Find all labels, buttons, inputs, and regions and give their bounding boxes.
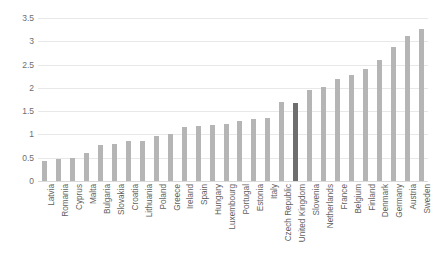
y-tick-label: 3 — [0, 37, 34, 45]
x-tick-label: Belgium — [355, 184, 362, 214]
x-tick-label: Latvia — [48, 184, 55, 206]
x-axis-labels: LatviaRomaniaCyprusMaltaBulgariaSlovakia… — [38, 184, 428, 268]
axis-baseline — [38, 181, 428, 182]
bar — [307, 90, 312, 181]
x-tick-label: Bulgaria — [104, 184, 111, 214]
x-tick-label: Malta — [90, 184, 97, 204]
x-tick-label: Estonia — [257, 184, 264, 211]
bar — [251, 119, 256, 181]
bar — [84, 153, 89, 181]
x-tick-label: Hungary — [215, 184, 222, 215]
x-tick-label: Portugal — [243, 184, 250, 215]
y-tick-label: 0.5 — [0, 154, 34, 162]
bar — [196, 126, 201, 181]
bar — [279, 102, 284, 181]
bar — [391, 47, 396, 181]
bar — [419, 29, 424, 181]
x-tick-label: Ireland — [187, 184, 194, 209]
x-tick-label: United Kingdom — [299, 184, 306, 242]
x-tick-label: Luxembourg — [229, 184, 236, 230]
bar — [224, 124, 229, 181]
x-tick-label: Romania — [62, 184, 69, 217]
y-tick-label: 1.5 — [0, 107, 34, 115]
y-tick-label: 2.5 — [0, 61, 34, 69]
bar — [140, 141, 145, 181]
bar — [168, 134, 173, 181]
x-tick-label: Spain — [201, 184, 208, 205]
bar — [154, 136, 159, 181]
y-tick-label: 0 — [0, 177, 34, 185]
x-tick-label: Netherlands — [327, 184, 334, 228]
bar — [335, 79, 340, 181]
y-tick-label: 3.5 — [0, 14, 34, 22]
bar — [42, 161, 47, 181]
bar — [265, 118, 270, 181]
bar — [112, 144, 117, 181]
x-tick-label: Slovenia — [313, 184, 320, 215]
bar — [210, 125, 215, 181]
x-tick-label: Sweden — [424, 184, 431, 214]
x-tick-label: Italy — [271, 184, 278, 199]
bar — [363, 69, 368, 181]
x-tick-label: Poland — [160, 184, 167, 210]
bar — [405, 36, 410, 181]
x-tick-label: Lithuania — [146, 184, 153, 217]
bar — [70, 158, 75, 181]
x-tick-label: Greece — [174, 184, 181, 211]
bar — [377, 60, 382, 181]
x-tick-label: Cyprus — [76, 184, 83, 210]
y-tick-label: 1 — [0, 130, 34, 138]
bar — [321, 87, 326, 181]
x-tick-label: Denmark — [382, 184, 389, 217]
x-tick-label: France — [341, 184, 348, 209]
x-tick-label: Czech Republic — [285, 184, 292, 241]
bar-chart: 00.511.522.533.5 LatviaRomaniaCyprusMalt… — [0, 0, 431, 268]
x-tick-label: Germany — [396, 184, 403, 218]
bar — [126, 141, 131, 181]
bar — [182, 127, 187, 181]
bar — [293, 103, 298, 181]
y-tick-label: 2 — [0, 84, 34, 92]
bars-layer — [38, 18, 428, 181]
x-tick-label: Finland — [369, 184, 376, 211]
x-tick-label: Austria — [410, 184, 417, 209]
bar — [349, 75, 354, 181]
bar — [56, 159, 61, 181]
x-tick-label: Croatia — [132, 184, 139, 210]
plot-area — [38, 18, 428, 181]
bar — [237, 121, 242, 181]
bar — [98, 145, 103, 181]
x-tick-label: Slovakia — [118, 184, 125, 215]
